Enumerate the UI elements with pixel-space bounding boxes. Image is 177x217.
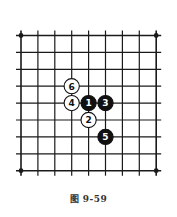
move-number: 2 [85, 115, 91, 125]
move-number: 4 [69, 98, 75, 108]
move-number: 1 [85, 98, 91, 108]
move-number: 6 [69, 82, 75, 92]
stone-white-4: 4 [64, 96, 79, 111]
go-board: 123456 [0, 0, 177, 190]
figure-caption: 图 9-59 [0, 192, 177, 205]
star-point-icon [19, 33, 24, 38]
stone-white-6: 6 [64, 79, 79, 94]
stone-black-1: 1 [81, 96, 96, 111]
move-number: 5 [102, 132, 108, 142]
star-point-icon [154, 168, 159, 173]
stone-black-5: 5 [98, 129, 113, 144]
star-point-icon [19, 168, 24, 173]
stone-white-2: 2 [81, 112, 96, 127]
star-point-icon [154, 33, 159, 38]
move-number: 3 [102, 98, 108, 108]
stone-black-3: 3 [98, 96, 113, 111]
